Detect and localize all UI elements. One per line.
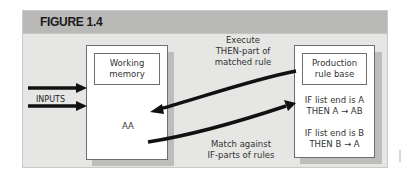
figure-title: FIGURE 1.4 [40, 15, 102, 29]
rule-2-action: THEN B → A [298, 139, 371, 150]
execute-label-line3: matched rule [208, 57, 278, 68]
execute-label: Execute THEN-part of matched rule [208, 35, 278, 68]
working-memory-content: AA [118, 121, 138, 132]
match-label-line2: IF-parts of rules [198, 150, 284, 161]
rule-2-condition: IF list end is B [298, 128, 371, 139]
match-label: Match against IF-parts of rules [198, 139, 284, 161]
figure-header: FIGURE 1.4 [23, 11, 387, 34]
rule-base-label-line1: Production [312, 58, 357, 69]
execute-label-line2: THEN-part of [208, 46, 278, 57]
inputs-label: INPUTS [36, 94, 65, 105]
rule-1-action: THEN A → AB [298, 106, 371, 117]
working-memory-label-line2: memory [109, 69, 145, 80]
rule-1: IF list end is A THEN A → AB [298, 95, 371, 117]
rule-base-label-line2: rule base [312, 69, 357, 80]
page-edge-mark [399, 150, 401, 162]
execute-label-line1: Execute [208, 35, 278, 46]
working-memory-label-box: Working memory [94, 53, 160, 85]
rule-2: IF list end is B THEN B → A [298, 128, 371, 150]
rule-1-condition: IF list end is A [298, 95, 371, 106]
match-label-line1: Match against [198, 139, 284, 150]
working-memory-label-line1: Working [109, 58, 145, 69]
rule-base-label-box: Production rule base [302, 53, 367, 85]
